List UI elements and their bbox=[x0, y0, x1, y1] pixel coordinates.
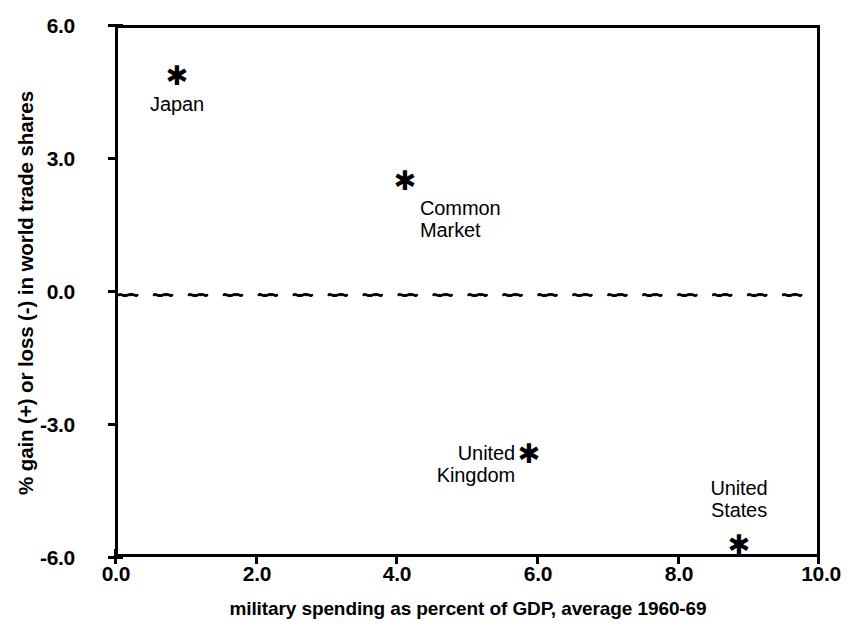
data-label-common-market: CommonMarket bbox=[420, 198, 501, 241]
x-tick-label-2: 2.0 bbox=[212, 563, 302, 584]
plot-area: ✱ Japan ✱ CommonMarket ✱ UnitedKingdom ✱… bbox=[115, 25, 820, 557]
data-label-united-kingdom-line1: United bbox=[458, 442, 515, 464]
y-tick-label-0: 0.0 bbox=[0, 281, 75, 302]
zero-line-svg bbox=[118, 289, 817, 301]
data-label-japan: Japan bbox=[150, 94, 204, 116]
x-tick-label-0: 0.0 bbox=[71, 563, 161, 584]
data-label-common-market-line2: Market bbox=[420, 219, 481, 241]
x-axis-title: military spending as percent of GDP, ave… bbox=[115, 598, 821, 620]
x-tick-label-4: 4.0 bbox=[352, 563, 442, 584]
data-label-united-states: UnitedStates bbox=[710, 477, 767, 521]
data-label-united-states-line1: United bbox=[710, 477, 767, 499]
x-tick-label-10: 10.0 bbox=[776, 563, 863, 584]
zero-reference-line bbox=[118, 287, 817, 299]
data-point-common-market[interactable]: ✱ bbox=[394, 167, 417, 194]
y-tick-label-3: 3.0 bbox=[0, 148, 75, 169]
data-label-united-states-line2: States bbox=[711, 499, 767, 521]
data-label-united-kingdom: UnitedKingdom bbox=[437, 442, 515, 486]
x-tick-label-8: 8.0 bbox=[634, 563, 724, 584]
y-tick-label-neg3: -3.0 bbox=[0, 414, 75, 435]
data-label-common-market-line1: Common bbox=[420, 197, 501, 219]
data-point-united-states[interactable]: ✱ bbox=[728, 531, 751, 558]
x-tick-label-6: 6.0 bbox=[493, 563, 583, 584]
y-tick-label-6: 6.0 bbox=[0, 15, 75, 36]
data-label-united-kingdom-line2: Kingdom bbox=[437, 464, 515, 486]
scatter-chart: % gain (+) or loss (-) in world trade sh… bbox=[0, 0, 863, 634]
data-point-japan[interactable]: ✱ bbox=[166, 62, 189, 89]
data-point-united-kingdom[interactable]: ✱ bbox=[518, 440, 541, 467]
y-tick-label-neg6: -6.0 bbox=[0, 547, 75, 568]
